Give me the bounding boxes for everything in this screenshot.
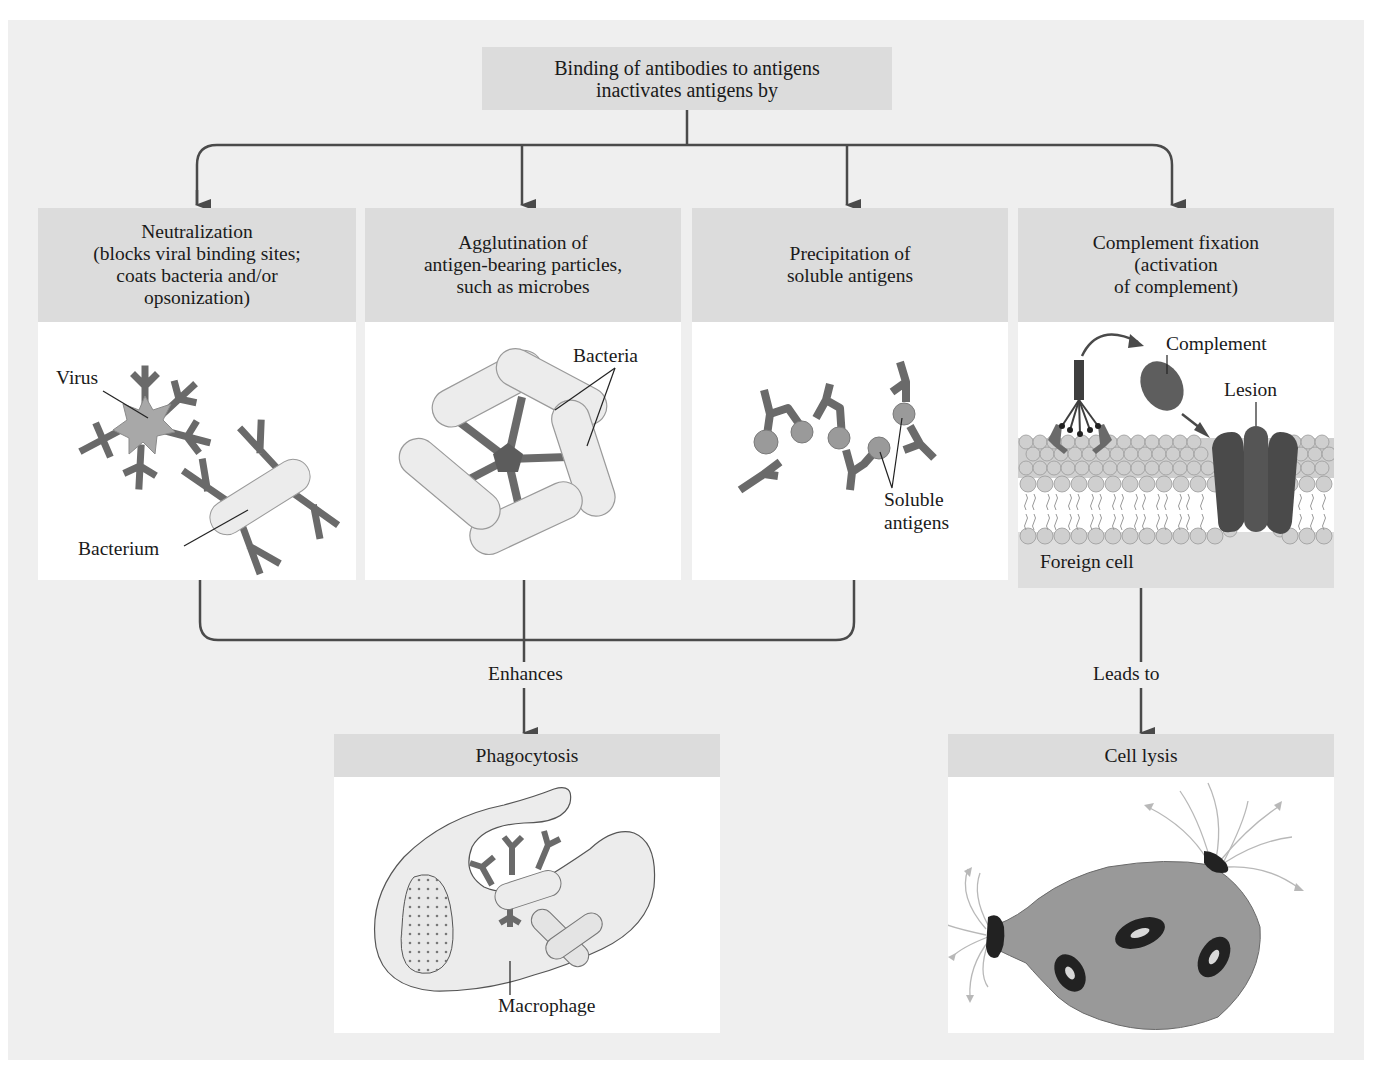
macrophage-label: Macrophage (498, 994, 595, 1017)
precipitation-illustration (692, 322, 1008, 580)
precipitation-header: Precipitation of soluble antigens (692, 208, 1008, 322)
cell-lysis-panel (948, 777, 1334, 1033)
precipitation-header-text: Precipitation of soluble antigens (787, 243, 913, 287)
neutralization-panel: Virus Bacterium (38, 322, 356, 580)
phagocytosis-header-text: Phagocytosis (476, 745, 579, 767)
bacterium-antibody-complex (178, 411, 342, 580)
title-text: Binding of antibodies to antigens inacti… (554, 57, 820, 101)
leads-to-label: Leads to (1089, 663, 1164, 685)
virus-label: Virus (56, 366, 98, 389)
neutralization-header-text: Neutralization (blocks viral binding sit… (93, 221, 300, 309)
neutralization-header: Neutralization (blocks viral binding sit… (38, 208, 356, 322)
cell-lysis-illustration (948, 777, 1334, 1033)
complement-label: Complement (1166, 332, 1267, 355)
lesion-label: Lesion (1224, 378, 1277, 401)
agglutination-panel: Bacteria (365, 322, 681, 580)
bacterium-label: Bacterium (78, 537, 159, 560)
phagocytosis-header: Phagocytosis (334, 734, 720, 777)
complement-header: Complement fixation (activation of compl… (1018, 208, 1334, 322)
cell-lysis-header-text: Cell lysis (1104, 745, 1177, 767)
soluble-antigens-label: Soluble antigens (884, 488, 949, 534)
precipitation-panel: Soluble antigens (692, 322, 1008, 580)
complement-illustration (1018, 322, 1334, 588)
complement-molecule (1132, 353, 1193, 418)
title-box: Binding of antibodies to antigens inacti… (482, 47, 892, 110)
complement-panel: Complement Lesion Foreign cell (1018, 322, 1334, 588)
lesion-pore (1212, 426, 1298, 534)
bacteria-label: Bacteria (573, 344, 638, 367)
virus-antibody-complex (83, 369, 207, 486)
agglutination-header-text: Agglutination of antigen-bearing particl… (424, 232, 622, 298)
phagocytosis-panel: Macrophage (334, 777, 720, 1033)
complement-header-text: Complement fixation (activation of compl… (1093, 232, 1259, 298)
cell-lysis-header: Cell lysis (948, 734, 1334, 777)
foreign-cell-label: Foreign cell (1040, 550, 1134, 573)
enhances-label: Enhances (484, 663, 567, 685)
agglutination-header: Agglutination of antigen-bearing particl… (365, 208, 681, 322)
